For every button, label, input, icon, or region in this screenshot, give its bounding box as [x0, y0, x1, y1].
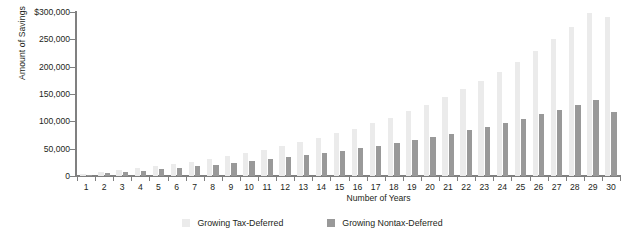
legend-swatch-icon-tax-deferred: [182, 219, 190, 227]
bar-tax-deferred: [80, 174, 85, 176]
legend-swatch-icon-nontax-deferred: [327, 219, 335, 227]
x-axis-tick-mark: [457, 177, 458, 181]
bar-tax-deferred: [207, 159, 212, 176]
legend-item-tax-deferred: Growing Tax-Deferred: [182, 218, 283, 228]
y-axis-tick-mark: [70, 12, 76, 13]
x-axis-tick-mark: [77, 177, 78, 181]
bar-nontax-deferred: [177, 168, 182, 176]
x-axis-tick-label: 28: [570, 182, 580, 192]
y-axis-tick-label: 100,000: [10, 116, 70, 126]
x-axis-tick-mark: [493, 177, 494, 181]
x-axis-tick-mark: [511, 177, 512, 181]
bar-nontax-deferred: [87, 175, 92, 176]
x-axis-tick-mark: [312, 177, 313, 181]
x-axis-tick-mark: [385, 177, 386, 181]
bar-tax-deferred: [153, 166, 158, 176]
bar-tax-deferred: [551, 39, 556, 176]
bar-nontax-deferred: [268, 159, 273, 176]
x-axis-tick-label: 16: [353, 182, 363, 192]
y-axis-tick-label: 50,000: [10, 144, 70, 154]
bar-tax-deferred: [135, 168, 140, 176]
x-axis-tick-mark: [204, 177, 205, 181]
x-axis-tick-label: 27: [552, 182, 562, 192]
bar-tax-deferred: [587, 13, 592, 176]
x-axis-tick-label: 12: [280, 182, 290, 192]
bar-nontax-deferred: [575, 105, 580, 176]
bar-tax-deferred: [279, 146, 284, 176]
x-axis-tick-label: 8: [210, 182, 215, 192]
x-axis-tick-mark: [403, 177, 404, 181]
x-axis-tick-mark: [294, 177, 295, 181]
bar-tax-deferred: [533, 51, 538, 176]
x-axis-tick-label: 6: [174, 182, 179, 192]
x-axis-tick-label: 15: [335, 182, 345, 192]
x-axis-tick-label: 29: [588, 182, 598, 192]
y-axis-tick-mark: [70, 121, 76, 122]
plot-area: [77, 12, 620, 176]
legend-label-tax-deferred: Growing Tax-Deferred: [197, 218, 283, 228]
bar-nontax-deferred: [593, 100, 598, 176]
x-axis-tick-mark: [258, 177, 259, 181]
bar-tax-deferred: [171, 164, 176, 176]
x-axis-tick-mark: [602, 177, 603, 181]
bar-tax-deferred: [370, 123, 375, 176]
x-axis-tick-mark: [530, 177, 531, 181]
savings-growth-bar-chart: Amount of Savings $300,000250,000200,000…: [0, 0, 625, 240]
x-axis-tick-label: 24: [498, 182, 508, 192]
bar-nontax-deferred: [141, 171, 146, 176]
y-axis-tick-label: $300,000: [10, 7, 70, 17]
x-axis-title-text: Number of Years: [346, 193, 410, 203]
bar-nontax-deferred: [449, 134, 454, 176]
x-axis-tick-mark: [620, 177, 621, 181]
x-axis-tick-mark: [95, 177, 96, 181]
bar-nontax-deferred: [286, 157, 291, 176]
bar-tax-deferred: [116, 170, 121, 176]
bar-tax-deferred: [316, 138, 321, 176]
y-axis-tick-mark: [70, 176, 76, 177]
bar-tax-deferred: [478, 81, 483, 176]
y-axis-tick-mark: [70, 39, 76, 40]
x-axis-tick-mark: [149, 177, 150, 181]
bar-nontax-deferred: [557, 110, 562, 176]
x-axis-tick-label: 5: [156, 182, 161, 192]
bar-nontax-deferred: [358, 148, 363, 176]
x-axis-tick-label: 11: [263, 182, 272, 192]
bar-nontax-deferred: [394, 143, 399, 176]
bar-nontax-deferred: [376, 146, 381, 177]
y-axis-tick-mark: [70, 149, 76, 150]
bar-nontax-deferred: [503, 123, 508, 176]
bar-tax-deferred: [515, 62, 520, 176]
y-axis-tick-label: 250,000: [10, 34, 70, 44]
x-axis-tick-mark: [276, 177, 277, 181]
x-axis-tick-label: 21: [443, 182, 453, 192]
y-axis-tick-mark: [70, 94, 76, 95]
x-axis-tick-mark: [439, 177, 440, 181]
x-axis-tick-mark: [131, 177, 132, 181]
x-axis-tick-mark: [330, 177, 331, 181]
x-axis-tick-label: 19: [407, 182, 417, 192]
x-axis-tick-mark: [421, 177, 422, 181]
bar-nontax-deferred: [430, 137, 435, 176]
bar-tax-deferred: [297, 142, 302, 176]
x-axis-tick-label: 23: [479, 182, 489, 192]
bar-tax-deferred: [243, 153, 248, 176]
x-axis-tick-label: 7: [192, 182, 197, 192]
x-axis-tick-label: 1: [84, 182, 89, 192]
bar-nontax-deferred: [539, 114, 544, 176]
y-axis-tick-label: 0: [10, 171, 70, 181]
x-axis-tick-mark: [113, 177, 114, 181]
bar-nontax-deferred: [231, 163, 236, 176]
x-axis-tick-label: 30: [606, 182, 616, 192]
x-axis-tick-mark: [566, 177, 567, 181]
y-axis-tick-labels: $300,000250,000200,000150,000100,00050,0…: [8, 0, 70, 240]
bar-nontax-deferred: [467, 130, 472, 176]
bar-tax-deferred: [442, 97, 447, 176]
bar-nontax-deferred: [195, 166, 200, 176]
bar-tax-deferred: [388, 118, 393, 176]
x-axis-tick-mark: [548, 177, 549, 181]
bar-tax-deferred: [225, 156, 230, 176]
bar-nontax-deferred: [412, 140, 417, 176]
legend-item-nontax-deferred: Growing Nontax-Deferred: [327, 218, 442, 228]
x-axis-tick-label: 13: [298, 182, 308, 192]
x-axis-tick-mark: [584, 177, 585, 181]
